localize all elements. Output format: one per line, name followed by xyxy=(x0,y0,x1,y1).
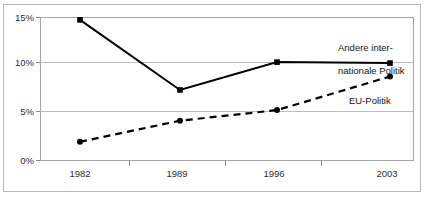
data-point-marker xyxy=(77,17,83,23)
data-point-marker xyxy=(177,118,183,124)
series-label-line-1: Andere inter- xyxy=(338,42,422,54)
series-label-eu-politik: EU-Politik xyxy=(349,95,421,107)
data-point-marker xyxy=(274,107,280,113)
data-point-marker xyxy=(177,87,183,93)
series-label-line-2: nationale Politik xyxy=(338,65,422,77)
data-point-marker xyxy=(274,59,280,65)
series-label-andere-internationale-politik: Andere inter- nationale Politik xyxy=(338,30,422,88)
chart-figure: 15% 10% 5% 0% 1982 1989 1996 2003 Andere… xyxy=(0,0,425,200)
data-point-marker xyxy=(77,139,83,145)
